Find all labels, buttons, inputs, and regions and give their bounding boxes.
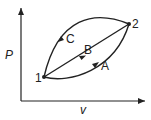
y-axis-label: P: [5, 48, 13, 62]
x-axis-label: v: [80, 103, 87, 117]
pv-diagram: 1 2 C B A P v: [0, 0, 151, 120]
path-a-label: A: [101, 59, 109, 73]
point-2-label: 2: [132, 17, 139, 31]
point-1: [42, 75, 46, 79]
path-b-label: B: [84, 43, 92, 57]
path-c-label: C: [66, 32, 75, 46]
point-2: [127, 22, 131, 26]
point-1-label: 1: [35, 71, 42, 85]
